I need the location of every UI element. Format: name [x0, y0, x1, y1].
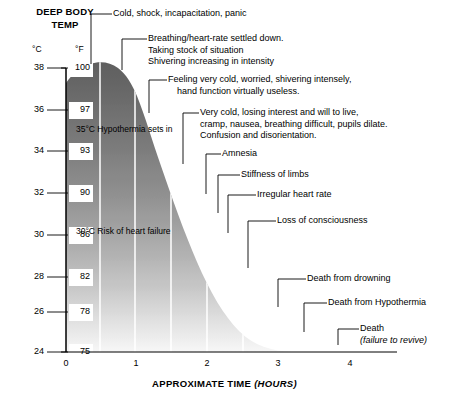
page-title: DEEP BODY TEMP — [22, 6, 108, 31]
annotation-loss-of-consciousness-line1: Loss of consciousness — [277, 215, 368, 227]
y-tick-f-75: 75 — [72, 346, 90, 356]
x-tick-3: 3 — [270, 358, 286, 368]
annotation-losing-interest: Very cold, losing interest and will to l… — [200, 107, 387, 142]
annotation-amnesia: Amnesia — [222, 148, 257, 160]
annotation-breathing-settled-line1: Breathing/heart-rate settled down. — [148, 33, 284, 45]
hypothermia-chart-figure: DEEP BODY TEMP °C °F 38 36 34 32 30 28 2… — [0, 0, 449, 398]
annotation-death-failure-to-revive-line2: (failure to revive) — [360, 335, 427, 345]
x-axis-title-unit: (HOURS) — [254, 378, 297, 389]
annotation-cold-shock: Cold, shock, incapacitation, panic — [113, 8, 247, 20]
x-axis-title: APPROXIMATE TIME (HOURS) — [0, 378, 449, 389]
annotation-death-from-hypothermia: Death from Hypothermia — [328, 297, 426, 309]
page-title-line1: DEEP BODY — [36, 6, 94, 17]
y-tick-c-36: 36 — [26, 104, 44, 114]
annotation-amnesia-line1: Amnesia — [222, 148, 257, 160]
y-tick-f-100: 100 — [72, 62, 90, 72]
y-tick-f-93: 93 — [72, 145, 90, 155]
annotation-feeling-very-cold-line2: hand function virtually useless. — [168, 86, 351, 98]
x-tick-0: 0 — [58, 358, 74, 368]
annotation-loss-of-consciousness: Loss of consciousness — [277, 215, 368, 227]
x-tick-4: 4 — [342, 358, 358, 368]
annotation-breathing-settled-line3: Shivering increasing in intensity — [148, 56, 284, 68]
annotation-losing-interest-line3: Confusion and disorientation. — [200, 130, 387, 142]
unit-fahrenheit-label: °F — [75, 44, 84, 54]
x-tick-2: 2 — [199, 358, 215, 368]
annotation-feeling-very-cold-line1: Feeling very cold, worried, shivering in… — [168, 74, 351, 86]
annotation-death-from-drowning-line1: Death from drowning — [307, 273, 391, 285]
annotation-death-from-drowning: Death from drowning — [307, 273, 391, 285]
y-tick-c-26: 26 — [26, 306, 44, 316]
y-tick-f-97: 97 — [72, 104, 90, 114]
y-tick-f-78: 78 — [72, 306, 90, 316]
y-axis — [61, 68, 66, 352]
annotation-losing-interest-line2: cramp, nausea, breathing difficult, pupi… — [200, 119, 387, 131]
annotation-death-failure-to-revive-line1: Death — [360, 323, 427, 335]
annotation-breathing-settled-line2: Taking stock of situation — [148, 45, 284, 57]
inchart-label-heart-failure: 30°C Risk of heart failure — [76, 226, 171, 236]
x-tick-1: 1 — [128, 358, 144, 368]
y-tick-c-34: 34 — [26, 145, 44, 155]
y-tick-c-32: 32 — [26, 187, 44, 197]
annotation-cold-shock-line1: Cold, shock, incapacitation, panic — [113, 8, 247, 20]
annotation-stiffness-of-limbs: Stiffness of limbs — [241, 169, 309, 181]
annotation-feeling-very-cold: Feeling very cold, worried, shivering in… — [168, 74, 351, 97]
annotation-death-from-hypothermia-line1: Death from Hypothermia — [328, 297, 426, 309]
annotation-death-failure-to-revive: Death (failure to revive) — [360, 323, 427, 346]
y-tick-c-24: 24 — [26, 346, 44, 356]
annotation-irregular-heart-rate: Irregular heart rate — [257, 189, 332, 201]
y-tick-connectors — [47, 68, 68, 352]
x-axis-title-main: APPROXIMATE TIME — [152, 378, 251, 389]
y-tick-f-90: 90 — [72, 187, 90, 197]
annotation-breathing-settled: Breathing/heart-rate settled down. Takin… — [148, 33, 284, 68]
annotation-losing-interest-line1: Very cold, losing interest and will to l… — [200, 107, 387, 119]
y-tick-c-28: 28 — [26, 271, 44, 281]
unit-celsius-label: °C — [32, 44, 42, 54]
annotation-irregular-heart-rate-line1: Irregular heart rate — [257, 189, 332, 201]
page-title-line2: TEMP — [51, 19, 78, 30]
inchart-label-hypothermia: 35°C Hypothermia sets in — [76, 124, 172, 134]
y-tick-f-82: 82 — [72, 271, 90, 281]
y-tick-c-30: 30 — [26, 229, 44, 239]
annotation-stiffness-of-limbs-line1: Stiffness of limbs — [241, 169, 309, 181]
y-tick-c-38: 38 — [26, 62, 44, 72]
